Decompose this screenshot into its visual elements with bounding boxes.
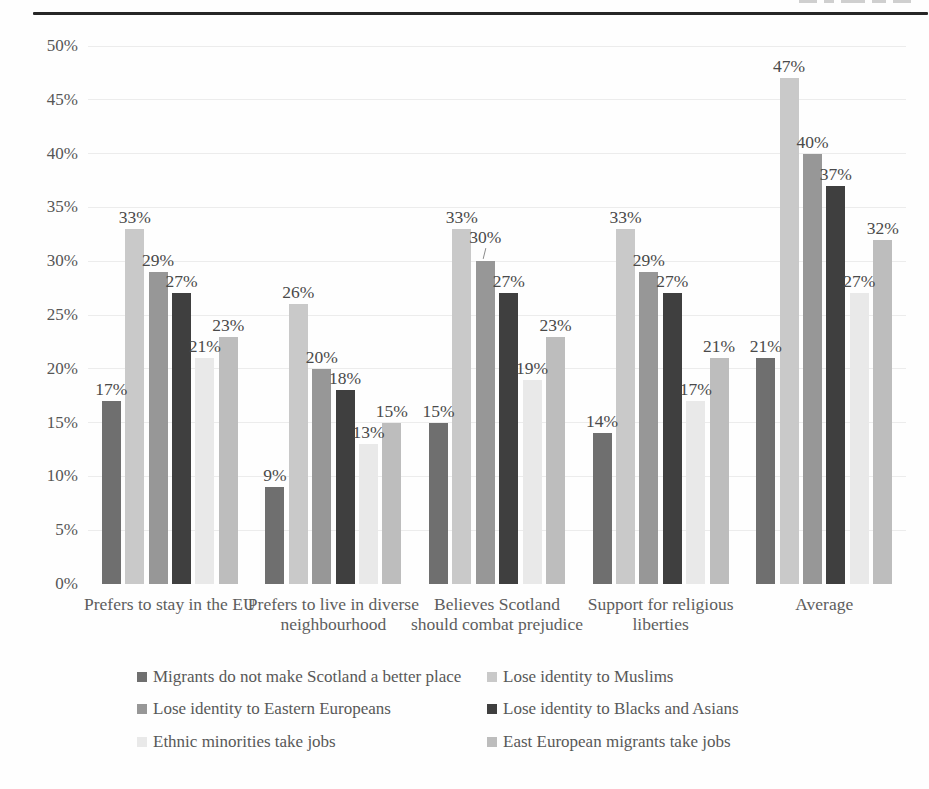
bar-5-3: [803, 154, 822, 584]
bar-chart: 0%5%10%15%20%25%30%35%40%45%50% 17%33%29…: [0, 0, 929, 789]
value-label: 17%: [670, 379, 722, 399]
bar-2-5: [359, 444, 378, 584]
value-label: 17%: [85, 379, 137, 399]
value-label: 29%: [623, 250, 675, 270]
value-label: 21%: [740, 336, 792, 356]
bar-5-4: [826, 186, 845, 584]
bar-1-2: [125, 229, 144, 584]
value-label: 27%: [646, 271, 698, 291]
bar-5-1: [756, 358, 775, 584]
y-tick-label: 10%: [20, 467, 78, 485]
y-tick-label: 25%: [20, 306, 78, 324]
legend-swatch-icon: [487, 704, 497, 714]
bar-3-5: [523, 380, 542, 584]
value-label: 32%: [857, 218, 909, 238]
legend-item: Lose identity to Eastern Europeans: [137, 698, 391, 720]
value-label: 15%: [366, 401, 418, 421]
value-label: 14%: [576, 411, 628, 431]
value-label: 33%: [600, 207, 652, 227]
legend-swatch-icon: [137, 672, 147, 682]
y-tick-label: 0%: [20, 575, 78, 593]
scanned-page: 0%5%10%15%20%25%30%35%40%45%50% 17%33%29…: [0, 0, 929, 789]
legend-item: Ethnic minorities take jobs: [137, 731, 336, 753]
value-label: 37%: [810, 164, 862, 184]
legend-item: Lose identity to Muslims: [487, 666, 673, 688]
y-tick-label: 45%: [20, 91, 78, 109]
legend-label: East European migrants take jobs: [503, 732, 731, 751]
bar-2-6: [382, 423, 401, 584]
category-label: Prefers to live in diverse neighbourhood: [245, 594, 421, 634]
value-label: 27%: [833, 271, 885, 291]
legend-item: Lose identity to Blacks and Asians: [487, 698, 739, 720]
y-tick-label: 50%: [20, 37, 78, 55]
value-label: 21%: [179, 336, 231, 356]
bar-4-4: [663, 293, 682, 584]
value-label: 33%: [109, 207, 161, 227]
value-label: 9%: [249, 465, 301, 485]
legend-swatch-icon: [487, 672, 497, 682]
legend-swatch-icon: [137, 737, 147, 747]
legend-swatch-icon: [137, 704, 147, 714]
value-label: 13%: [343, 422, 395, 442]
legend-label: Migrants do not make Scotland a better p…: [153, 667, 461, 686]
bar-1-6: [219, 337, 238, 584]
bar-2-4: [336, 390, 355, 584]
bar-5-2: [780, 78, 799, 584]
y-tick-label: 20%: [20, 360, 78, 378]
value-label: 20%: [296, 347, 348, 367]
value-label: 19%: [506, 358, 558, 378]
value-label: 18%: [319, 368, 371, 388]
legend-label: Lose identity to Muslims: [503, 667, 673, 686]
bar-1-1: [102, 401, 121, 584]
category-label: Prefers to stay in the EU: [82, 594, 258, 614]
y-tick-label: 5%: [20, 521, 78, 539]
y-tick-label: 30%: [20, 252, 78, 270]
bar-5-5: [850, 293, 869, 584]
value-label: 47%: [763, 56, 815, 76]
y-tick-label: 15%: [20, 414, 78, 432]
bar-3-1: [429, 423, 448, 584]
y-tick-label: 40%: [20, 145, 78, 163]
bar-1-5: [195, 358, 214, 584]
legend-label: Ethnic minorities take jobs: [153, 732, 336, 751]
value-label: 29%: [132, 250, 184, 270]
value-label: 23%: [202, 315, 254, 335]
value-label: 27%: [483, 271, 535, 291]
value-label: 30%: [459, 227, 511, 247]
bar-3-4: [499, 293, 518, 584]
category-label: Support for religious liberties: [573, 594, 749, 634]
legend-item: East European migrants take jobs: [487, 731, 731, 753]
value-label: 27%: [156, 271, 208, 291]
category-label: Average: [736, 594, 912, 614]
bar-4-1: [593, 433, 612, 584]
bar-3-3: [476, 261, 495, 584]
legend-label: Lose identity to Eastern Europeans: [153, 699, 391, 718]
value-label: 21%: [693, 336, 745, 356]
value-label: 23%: [530, 315, 582, 335]
label-leader-line: [483, 248, 487, 259]
value-label: 15%: [413, 401, 465, 421]
gridline: [88, 46, 906, 47]
bar-4-2: [616, 229, 635, 584]
value-label: 40%: [787, 132, 839, 152]
bar-2-3: [312, 369, 331, 584]
value-label: 26%: [272, 282, 324, 302]
bar-2-1: [265, 487, 284, 584]
legend-item: Migrants do not make Scotland a better p…: [137, 666, 461, 688]
value-label: 33%: [436, 207, 488, 227]
legend-swatch-icon: [487, 737, 497, 747]
bar-1-3: [149, 272, 168, 584]
legend-label: Lose identity to Blacks and Asians: [503, 699, 739, 718]
bar-4-5: [686, 401, 705, 584]
bar-4-3: [639, 272, 658, 584]
category-label: Believes Scotland should combat prejudic…: [409, 594, 585, 634]
y-tick-label: 35%: [20, 198, 78, 216]
